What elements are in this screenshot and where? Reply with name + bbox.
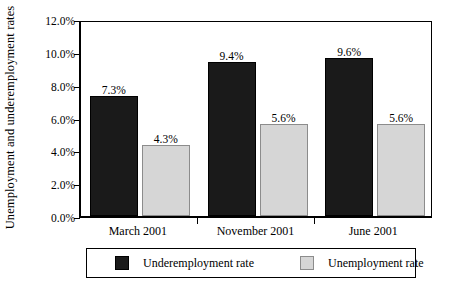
legend-swatch-dark bbox=[115, 256, 129, 270]
legend-entry[interactable]: Underemployment rate bbox=[115, 249, 254, 277]
legend-label: Unemployment rate bbox=[328, 256, 424, 271]
plot-area: 7.3%4.3%9.4%5.6%9.6%5.6% bbox=[79, 21, 432, 218]
bar bbox=[325, 58, 373, 216]
bar bbox=[377, 124, 425, 216]
y-axis-title: Unemployment and underemployment rates bbox=[0, 0, 22, 235]
y-tick-label: 10.0% bbox=[31, 48, 75, 60]
bar bbox=[142, 145, 190, 216]
y-tick-mark bbox=[74, 218, 80, 219]
x-tick-label: June 2001 bbox=[349, 224, 398, 239]
x-tick-label: March 2001 bbox=[109, 224, 167, 239]
bar-value-label: 4.3% bbox=[154, 133, 178, 145]
legend-swatch-light bbox=[300, 256, 314, 270]
bar-value-label: 7.3% bbox=[102, 84, 126, 96]
bar-value-label: 9.6% bbox=[337, 46, 361, 58]
y-tick-label: 4.0% bbox=[31, 146, 75, 158]
x-tick-mark bbox=[197, 218, 198, 224]
legend-label: Underemployment rate bbox=[143, 256, 254, 271]
y-axis-title-text: Unemployment and underemployment rates bbox=[4, 6, 19, 230]
y-tick-label: 2.0% bbox=[31, 179, 75, 191]
x-tick-label: November 2001 bbox=[217, 224, 295, 239]
bar bbox=[260, 124, 308, 216]
bar-value-label: 9.4% bbox=[220, 50, 244, 62]
bar-value-label: 5.6% bbox=[272, 112, 296, 124]
y-tick-label: 8.0% bbox=[31, 81, 75, 93]
chart-figure: Unemployment and underemployment rates 0… bbox=[0, 0, 454, 291]
bar bbox=[208, 62, 256, 216]
bar bbox=[90, 96, 138, 216]
bar-value-label: 5.6% bbox=[389, 112, 413, 124]
legend-entry[interactable]: Unemployment rate bbox=[300, 249, 424, 277]
chart-legend: Underemployment rateUnemployment rate bbox=[86, 248, 416, 278]
y-tick-label: 12.0% bbox=[31, 15, 75, 27]
y-tick-label: 6.0% bbox=[31, 114, 75, 126]
x-tick-mark bbox=[314, 218, 315, 224]
y-tick-label: 0.0% bbox=[31, 212, 75, 224]
